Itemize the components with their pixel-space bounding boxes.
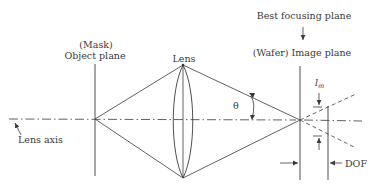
image-side-rays: [183, 65, 300, 178]
lens-shape: [173, 64, 193, 178]
dof-label: DOF: [345, 158, 367, 169]
object-side-rays: [95, 65, 183, 178]
lm-dimension: [313, 93, 322, 150]
lm-subscript: m: [318, 82, 324, 90]
image-plane-label: (Wafer) Image plane: [253, 47, 351, 58]
object-plane-label: Object plane: [64, 50, 125, 61]
lens-label: Lens: [173, 53, 196, 64]
lm-label: lm: [315, 77, 324, 92]
best-focusing-plane-label: Best focusing plane: [257, 10, 352, 21]
depth-of-focus-diagram: (Mask) Object plane Lens Best focusing p…: [0, 0, 380, 189]
lens-axis-label: Lens axis: [18, 134, 63, 145]
mask-label: (Mask): [79, 39, 112, 50]
theta-label: θ: [233, 100, 239, 111]
angle-theta-arc: [249, 93, 255, 120]
lens-axis-line: [9, 119, 362, 121]
diagram-canvas: [0, 0, 380, 189]
